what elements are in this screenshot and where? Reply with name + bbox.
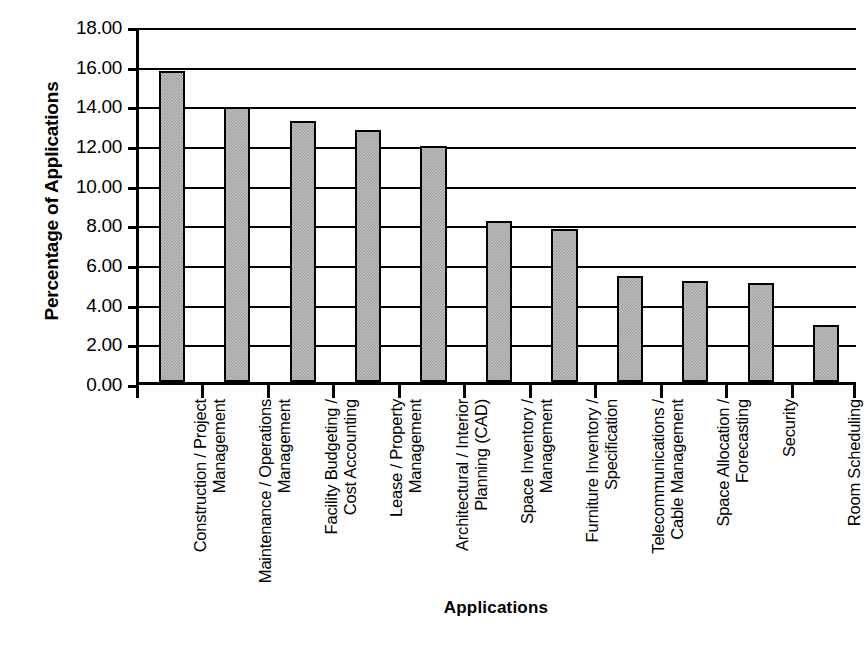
bar: [748, 283, 774, 382]
x-axis-category-label: Maintenance / Operations Management: [256, 399, 294, 585]
x-axis-category-label: Architectural / Interior Planning (CAD): [453, 399, 491, 585]
y-axis-tick-label: 0.00: [86, 374, 122, 396]
bar: [551, 229, 577, 382]
bar: [355, 130, 381, 382]
x-axis-category-label: Security: [780, 399, 799, 585]
x-axis-tick: [463, 385, 466, 398]
x-axis-category-labels: Construction / Project ManagementMainten…: [136, 399, 856, 589]
y-axis-tick: [128, 68, 139, 71]
y-axis-tick-label: 4.00: [86, 295, 122, 317]
bar: [159, 71, 185, 382]
x-axis-tick: [853, 385, 856, 398]
y-axis-tick-label: 10.00: [76, 176, 122, 198]
y-axis-tick: [128, 345, 139, 348]
x-axis-category-label: Construction / Project Management: [191, 399, 229, 585]
y-axis-tick-label: 16.00: [76, 57, 122, 79]
y-axis-tick-label: 14.00: [76, 96, 122, 118]
y-axis-tick-label: 12.00: [76, 136, 122, 158]
y-axis-tick: [128, 266, 139, 269]
y-axis-tick: [128, 226, 139, 229]
y-axis-tick: [128, 147, 139, 150]
x-axis-category-label: Lease / Property Management: [387, 399, 425, 585]
y-axis-tick: [128, 28, 139, 31]
x-axis-category-label: Furniture Inventory / Specification: [583, 399, 621, 585]
bar: [224, 107, 250, 382]
x-axis-tick: [594, 385, 597, 398]
bar: [486, 221, 512, 382]
x-axis-tick: [529, 385, 532, 398]
x-axis-tick: [725, 385, 728, 398]
x-axis-category-label: Telecommunications / Cable Management: [649, 399, 687, 585]
x-axis-tick: [660, 385, 663, 398]
bar: [420, 146, 446, 382]
y-axis-tick-labels: 0.002.004.006.008.0010.0012.0014.0016.00…: [20, 0, 132, 645]
plot-area: [136, 28, 856, 385]
x-axis-tick: [791, 385, 794, 398]
y-axis-tick-label: 2.00: [86, 334, 122, 356]
y-axis-tick: [128, 107, 139, 110]
x-axis-category-label: Room Scheduling: [845, 399, 864, 585]
y-axis-tick-label: 8.00: [86, 215, 122, 237]
bar: [813, 325, 839, 382]
bar: [682, 281, 708, 382]
bar: [290, 121, 316, 382]
x-axis-tick: [267, 385, 270, 398]
x-axis-ticks: [136, 385, 856, 399]
x-axis-title: Applications: [136, 598, 856, 618]
x-axis-category-label: Facility Budgeting / Cost Accounting: [322, 399, 360, 585]
x-axis-category-label: Space Allocation / Forecasting: [714, 399, 752, 585]
y-axis-tick-label: 6.00: [86, 255, 122, 277]
y-axis-tick-label: 18.00: [76, 17, 122, 39]
bar-series: [139, 28, 856, 382]
x-axis-category-label: Space Inventory / Management: [518, 399, 556, 585]
x-axis-tick: [332, 385, 335, 398]
y-axis-tick: [128, 187, 139, 190]
x-axis-tick: [398, 385, 401, 398]
bar: [617, 276, 643, 382]
y-axis-tick: [128, 306, 139, 309]
x-axis-tick: [136, 385, 139, 398]
x-axis-tick: [201, 385, 204, 398]
